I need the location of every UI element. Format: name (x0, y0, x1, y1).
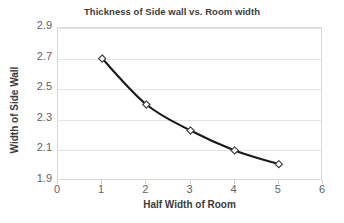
data-point-marker (275, 161, 282, 168)
y-axis-tick-label: 2.9 (21, 19, 52, 31)
data-point-marker (231, 147, 238, 154)
chart-title: Thickness of Side wall vs. Room width (0, 6, 344, 17)
x-axis-tick-label: 4 (224, 183, 244, 195)
y-axis-tick-label: 2.5 (21, 80, 52, 92)
plot-inner (58, 28, 321, 179)
y-axis-tick-label: 2.7 (21, 50, 52, 62)
y-axis-title: Width of Side Wall (8, 30, 22, 190)
x-axis-tick-label: 0 (47, 183, 67, 195)
y-axis-tick-label: 2.1 (21, 141, 52, 153)
x-axis-tick-label: 5 (268, 183, 288, 195)
y-axis-tick-label: 2.3 (21, 111, 52, 123)
x-axis-tick-label: 2 (135, 183, 155, 195)
x-axis-title: Half Width of Room (57, 199, 322, 210)
data-point-marker (187, 127, 194, 134)
x-axis-tick-label: 6 (312, 183, 332, 195)
data-series (58, 28, 323, 181)
plot-area (57, 27, 322, 180)
series-line (102, 59, 279, 165)
x-axis-tick-label: 1 (91, 183, 111, 195)
chart-container: Thickness of Side wall vs. Room width Wi… (0, 0, 344, 223)
x-axis-tick-label: 3 (180, 183, 200, 195)
